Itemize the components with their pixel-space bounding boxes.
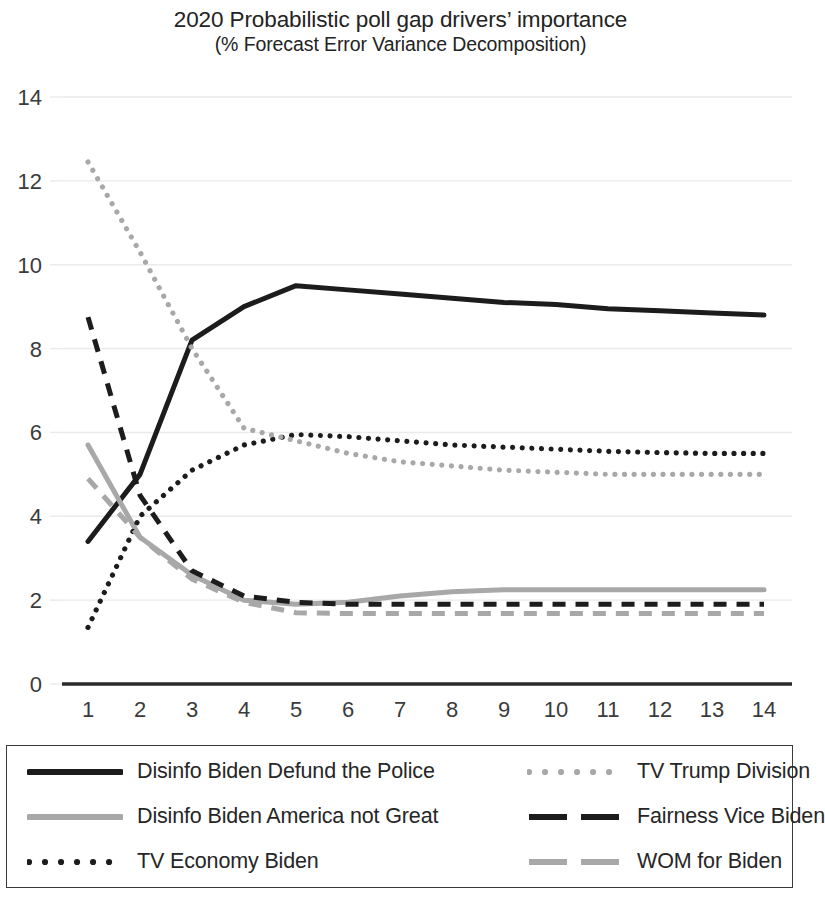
legend-grid: Disinfo Biden Defund the Police TV Trump… — [7, 746, 792, 887]
legend-swatch-solid-dark — [27, 761, 123, 783]
x-tick-label: 4 — [238, 697, 250, 722]
series-lines — [88, 162, 764, 627]
legend-item-disinfo-biden-defund-the-police[interactable]: Disinfo Biden Defund the Police — [7, 759, 507, 784]
legend-item-tv-trump-division[interactable]: TV Trump Division — [507, 759, 825, 784]
y-tick-label: 0 — [30, 672, 42, 697]
y-tick-label: 14 — [18, 85, 42, 110]
legend-swatch-dashed-gray — [527, 851, 623, 873]
x-tick-label: 8 — [446, 697, 458, 722]
series-line-disinfo-biden-defund-the-police — [88, 286, 764, 542]
plot-canvas: 02468101214 1234567891011121314 — [0, 0, 801, 740]
legend-item-wom-for-biden[interactable]: WOM for Biden — [507, 849, 825, 874]
legend-label: Disinfo Biden Defund the Police — [137, 759, 435, 784]
y-tick-label: 12 — [18, 169, 42, 194]
y-tick-marks — [50, 97, 62, 684]
legend-swatch-solid-gray — [27, 806, 123, 828]
y-tick-label: 8 — [30, 337, 42, 362]
series-line-tv-trump-division — [88, 162, 764, 474]
chart-legend: Disinfo Biden Defund the Police TV Trump… — [6, 745, 793, 888]
x-tick-label: 12 — [648, 697, 672, 722]
legend-label: TV Trump Division — [637, 759, 810, 784]
x-tick-label: 3 — [186, 697, 198, 722]
x-tick-label: 6 — [342, 697, 354, 722]
series-line-disinfo-biden-america-not-great — [88, 445, 764, 604]
legend-swatch-dotted-dark — [27, 851, 123, 873]
y-tick-labels: 02468101214 — [18, 85, 42, 697]
legend-label: Fairness Vice Biden — [637, 804, 825, 829]
legend-swatch-dashed-dark — [527, 806, 623, 828]
y-tick-label: 4 — [30, 504, 42, 529]
legend-label: TV Economy Biden — [137, 849, 319, 874]
legend-item-tv-economy-biden[interactable]: TV Economy Biden — [7, 849, 507, 874]
x-tick-label: 14 — [752, 697, 776, 722]
legend-item-disinfo-biden-america-not-great[interactable]: Disinfo Biden America not Great — [7, 804, 507, 829]
legend-swatch-dotted-gray — [527, 761, 623, 783]
x-tick-label: 10 — [544, 697, 568, 722]
y-tick-label: 10 — [18, 253, 42, 278]
y-tick-label: 6 — [30, 420, 42, 445]
x-tick-label: 13 — [700, 697, 724, 722]
x-tick-label: 2 — [134, 697, 146, 722]
x-tick-labels: 1234567891011121314 — [82, 697, 776, 722]
x-tick-label: 7 — [394, 697, 406, 722]
series-line-tv-economy-biden — [88, 435, 764, 628]
x-tick-label: 1 — [82, 697, 94, 722]
x-tick-label: 9 — [498, 697, 510, 722]
plot-area: 02468101214 1234567891011121314 — [0, 0, 801, 740]
x-tick-label: 11 — [597, 697, 620, 722]
legend-label: Disinfo Biden America not Great — [137, 804, 438, 829]
x-tick-label: 5 — [290, 697, 302, 722]
y-tick-label: 2 — [30, 588, 42, 613]
legend-label: WOM for Biden — [637, 849, 782, 874]
legend-item-fairness-vice-biden[interactable]: Fairness Vice Biden — [507, 804, 825, 829]
gridlines — [62, 97, 792, 600]
series-line-fairness-vice-biden — [88, 317, 764, 604]
